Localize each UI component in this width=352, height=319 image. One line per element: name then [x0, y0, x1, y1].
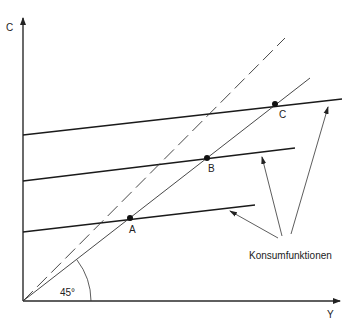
point-a-marker [127, 215, 133, 221]
point-a-label: A [129, 224, 136, 235]
angle-arc [77, 260, 91, 301]
angle-label: 45° [60, 287, 75, 298]
point-b-label: B [208, 163, 215, 174]
arrow-to-function-2 [262, 157, 282, 236]
consumption-functions-label: Konsumfunktionen [249, 250, 332, 261]
y-axis-label: C [6, 22, 13, 33]
dashed-line [23, 38, 285, 301]
consumption-diagram: C Y 45° A B C Konsumfunktionen [0, 0, 352, 319]
consumption-function-3 [23, 205, 255, 232]
point-c-marker [272, 101, 278, 107]
point-b-marker [204, 155, 210, 161]
x-axis-label: Y [327, 309, 334, 319]
arrow-to-function-3 [230, 211, 278, 238]
arrow-to-function-1 [291, 107, 328, 234]
45-degree-line [23, 78, 310, 301]
consumption-function-1 [23, 99, 342, 135]
point-c-label: C [279, 109, 286, 120]
